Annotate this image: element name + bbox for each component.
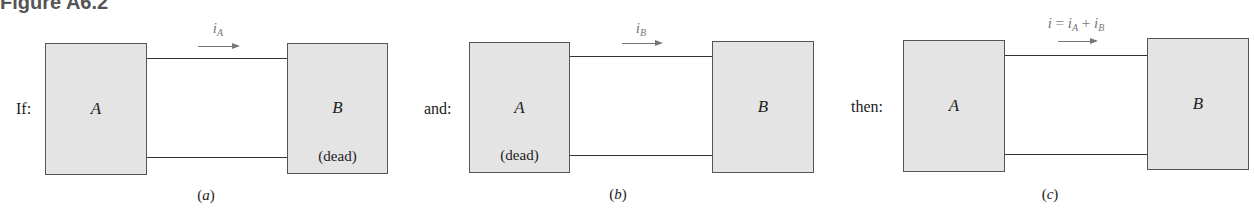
top-wire — [1005, 55, 1147, 56]
condition-label-if: If: — [16, 100, 31, 118]
condition-label-then: then: — [851, 98, 883, 116]
box-b-letter: B — [713, 97, 813, 117]
bottom-wire — [570, 155, 712, 156]
box-a: A — [45, 43, 147, 175]
figure-title: Figure A6.2 — [0, 0, 108, 14]
caption-a: (a) — [197, 187, 215, 204]
current-arrow-icon — [1058, 41, 1096, 42]
box-a-letter: A — [904, 96, 1004, 116]
box-b: B — [1147, 38, 1249, 170]
box-b: B (dead) — [287, 43, 388, 174]
top-wire — [147, 58, 287, 59]
dead-note: (dead) — [288, 148, 387, 165]
box-b-letter: B — [1148, 94, 1248, 114]
current-label-ib: iB — [636, 20, 646, 38]
condition-label-and: and: — [424, 100, 452, 118]
caption-b: (b) — [609, 186, 627, 203]
caption-c: (c) — [1042, 186, 1059, 203]
box-a-letter: A — [46, 99, 146, 119]
bottom-wire — [1005, 154, 1147, 155]
bottom-wire — [147, 157, 287, 158]
box-a: A — [903, 40, 1005, 172]
box-a-letter: A — [470, 98, 569, 118]
box-b: B — [712, 41, 814, 173]
current-label-ia: iA — [213, 20, 223, 38]
dead-note: (dead) — [470, 147, 569, 164]
current-label-sum: i = iA + iB — [1048, 15, 1105, 33]
box-a: A (dead) — [469, 42, 570, 173]
top-wire — [570, 56, 712, 57]
box-b-letter: B — [288, 98, 387, 118]
current-arrow-icon — [622, 43, 661, 44]
current-arrow-icon — [198, 46, 238, 47]
